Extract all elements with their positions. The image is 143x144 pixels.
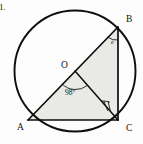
- item-number: 1.: [0, 2, 6, 12]
- vertex-label-a: A: [17, 122, 24, 132]
- vertex-label-c: C: [126, 123, 132, 133]
- vertex-label-b: B: [126, 14, 132, 24]
- geometry-figure: A B C O 98° e 1.: [0, 0, 143, 144]
- geometry-canvas: A B C O 98° e: [0, 0, 143, 144]
- center-label-o: O: [61, 60, 68, 70]
- angle-value-at-o: 98°: [65, 88, 76, 97]
- item-number-container: 1.: [0, 0, 15, 13]
- angle-value-at-b: e: [111, 38, 114, 45]
